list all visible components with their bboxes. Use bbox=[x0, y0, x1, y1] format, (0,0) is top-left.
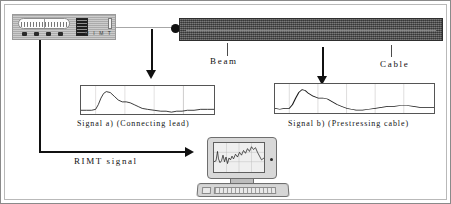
computer-keyboard[interactable] bbox=[196, 183, 289, 197]
display-divider bbox=[44, 19, 45, 28]
arrow-head bbox=[146, 70, 156, 79]
connecting-lead-wire bbox=[116, 27, 173, 28]
arrow-shaft bbox=[322, 47, 324, 76]
instrument-button-3[interactable] bbox=[46, 32, 51, 36]
monitor-screen bbox=[213, 142, 265, 173]
signal-a-gridlines bbox=[96, 86, 184, 114]
signal-b-plot bbox=[274, 83, 435, 114]
screen-chart-svg bbox=[214, 143, 264, 172]
signal-a-plot bbox=[80, 85, 215, 115]
instrument-indicator-led bbox=[108, 18, 112, 29]
cable-label: Cable bbox=[380, 59, 410, 69]
rimt-route-horizontal-line bbox=[39, 151, 187, 153]
instrument-brand-label: R I M T bbox=[85, 30, 113, 36]
rimt-route-arrow-head-icon bbox=[185, 147, 194, 157]
arrow-down-to-signal-a-icon bbox=[146, 29, 157, 79]
arrow-down-to-signal-b-icon bbox=[317, 47, 328, 85]
signal-b-caption: Signal b) (Prestressing cable) bbox=[288, 119, 409, 128]
arrow-shaft bbox=[151, 29, 153, 70]
instrument-button-4[interactable] bbox=[58, 32, 63, 36]
monitor-power-led bbox=[270, 158, 273, 161]
signal-b-trace bbox=[275, 90, 434, 111]
desktop-computer[interactable] bbox=[197, 137, 289, 199]
rimt-signal-label: RIMT signal bbox=[74, 156, 138, 166]
signal-a-svg bbox=[81, 86, 214, 114]
screen-chart-gridlines bbox=[214, 143, 264, 172]
instrument-button-2[interactable] bbox=[34, 32, 39, 36]
cable-leader-line bbox=[391, 45, 392, 57]
rimt-instrument[interactable]: R I M T bbox=[12, 14, 116, 40]
figure-canvas: R I M T Beam Cable Signal a) (Connecting… bbox=[0, 0, 451, 204]
signal-b-svg bbox=[275, 84, 434, 113]
signal-a-caption: Signal a) (Connecting lead) bbox=[77, 119, 190, 128]
keyboard-function-pad[interactable] bbox=[202, 187, 211, 194]
instrument-button-1[interactable] bbox=[22, 32, 27, 36]
signal-a-trace bbox=[81, 92, 214, 113]
keyboard-key-rows[interactable] bbox=[214, 187, 276, 194]
embedded-cable-line bbox=[186, 30, 436, 31]
beam-label: Beam bbox=[210, 56, 238, 66]
beam-leader-line bbox=[227, 43, 228, 56]
concrete-beam bbox=[179, 18, 443, 41]
rimt-route-vertical-line bbox=[39, 40, 41, 152]
computer-monitor bbox=[207, 137, 277, 179]
